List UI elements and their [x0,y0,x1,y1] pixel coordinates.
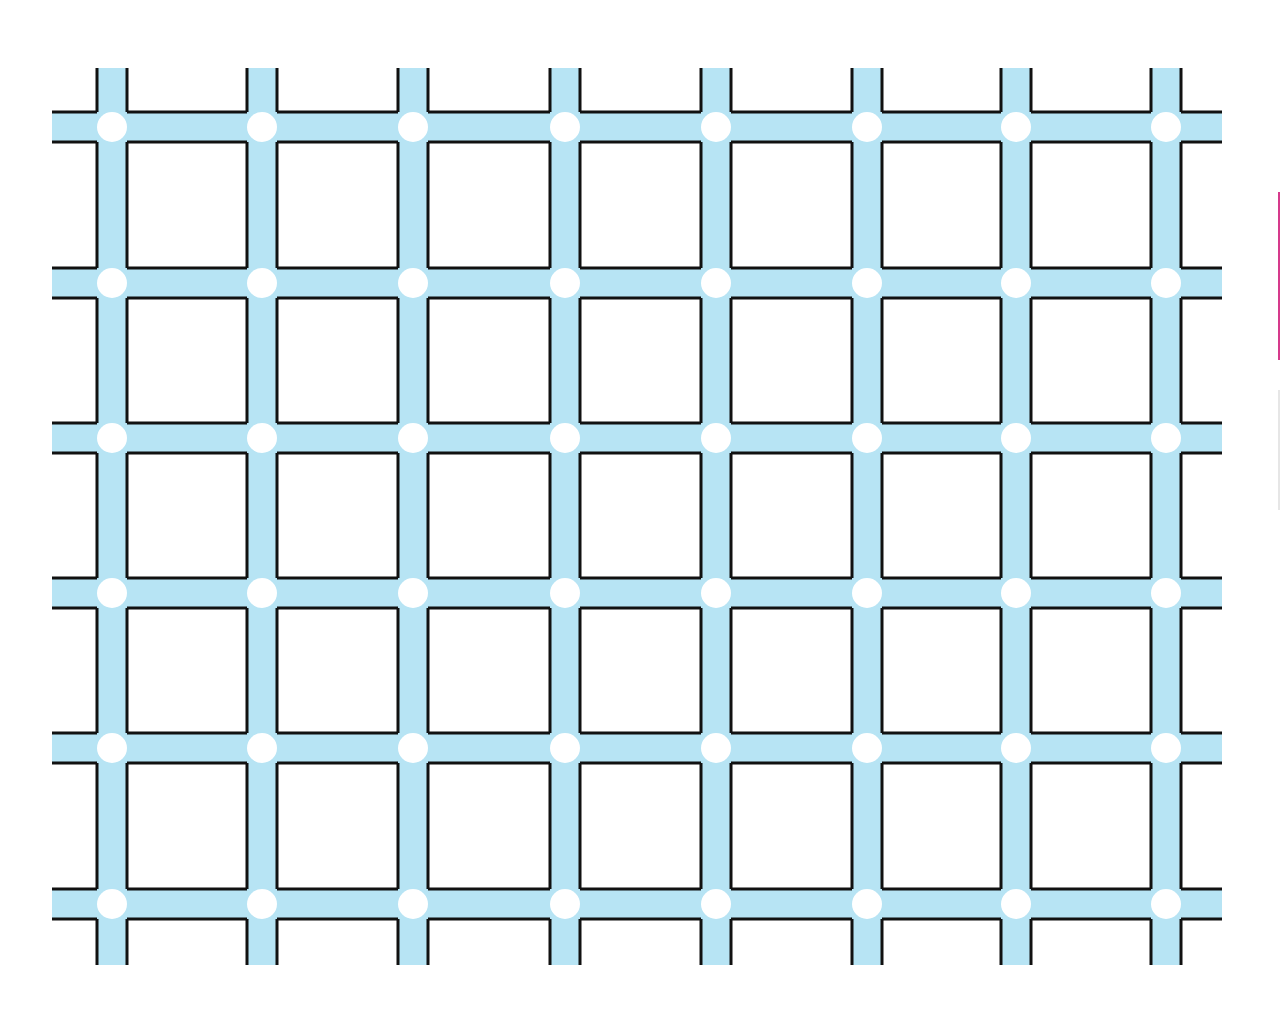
intersection-dot [97,578,127,608]
cell-outline [277,142,398,268]
intersection-dot [1001,268,1031,298]
cell-outline [1181,919,1222,965]
intersection-dot [97,733,127,763]
cell-outline [52,142,97,268]
horizontal-band [52,112,1222,142]
intersection-dot [1151,733,1181,763]
cell-outline [580,142,701,268]
cell-outline [580,919,701,965]
cell-outline [52,453,97,578]
intersection-dot [247,423,277,453]
intersection-dot [852,112,882,142]
cell-outline [731,453,852,578]
intersection-dot [398,112,428,142]
cell-outline [52,68,97,112]
cell-outline [52,919,97,965]
cell-outline [731,608,852,733]
intersection-dot [398,578,428,608]
cell-outline [1181,608,1222,733]
intersection-dot [1001,733,1031,763]
intersection-dot [97,423,127,453]
intersection-dot [1151,112,1181,142]
cell-outline [428,142,550,268]
cell-outline [731,763,852,889]
horizontal-band [52,268,1222,298]
intersection-dot [550,268,580,298]
intersection-dot [1001,578,1031,608]
cell-outline [277,453,398,578]
vertical-band [97,68,127,965]
intersection-dot [550,578,580,608]
cell-outline [277,763,398,889]
intersection-dot [852,733,882,763]
cell-outline [1031,142,1151,268]
cell-outline [1181,68,1222,112]
cell-outline [1031,919,1151,965]
vertical-band [247,68,277,965]
intersection-dot [550,733,580,763]
intersection-dot [550,889,580,919]
horizontal-band [52,423,1222,453]
cell-outline [731,68,852,112]
cell-outline [52,298,97,423]
cell-outline [1031,68,1151,112]
cell-outline [277,298,398,423]
horizontal-band [52,578,1222,608]
vertical-band [398,68,428,965]
cell-outline [428,763,550,889]
intersection-dot [701,578,731,608]
intersection-dot [1151,423,1181,453]
horizontal-band [52,889,1222,919]
vertical-band [550,68,580,965]
cell-outline [1181,142,1222,268]
intersection-dot [852,423,882,453]
cell-outline [882,763,1001,889]
cell-outline [127,142,247,268]
cell-outline [127,453,247,578]
intersection-dot [1001,112,1031,142]
cell-outline [127,608,247,733]
intersection-dot [97,889,127,919]
grid-illusion [0,0,1281,1014]
edge-mark [1278,390,1280,510]
cell-outline [52,763,97,889]
cell-outline [731,298,852,423]
vertical-band [852,68,882,965]
edge-mark [1278,192,1280,360]
cell-outline [731,142,852,268]
cell-outline [428,298,550,423]
cell-outline [580,453,701,578]
cell-outline [731,919,852,965]
cell-outline [882,919,1001,965]
cell-outline [1031,608,1151,733]
intersection-dot [97,112,127,142]
intersection-dot [852,578,882,608]
intersection-dot [398,423,428,453]
intersection-dot [1001,423,1031,453]
intersection-dot [398,268,428,298]
cell-outline [580,68,701,112]
intersection-dot [97,268,127,298]
cell-outline [882,68,1001,112]
intersection-dot [398,889,428,919]
intersection-dot [1001,889,1031,919]
cell-outline [277,608,398,733]
cell-outline [1181,453,1222,578]
cell-outline [882,142,1001,268]
cell-outline [1031,298,1151,423]
intersection-dot [852,889,882,919]
vertical-band [701,68,731,965]
cell-outline [277,919,398,965]
cell-outline [1181,763,1222,889]
intersection-dot [701,733,731,763]
intersection-dot [550,112,580,142]
cell-outline [127,763,247,889]
intersection-dot [701,889,731,919]
cell-outline [882,298,1001,423]
intersection-dot [701,268,731,298]
intersection-dot [852,268,882,298]
scintillating-grid-figure [0,0,1281,1014]
vertical-band [1001,68,1031,965]
intersection-dot [1151,268,1181,298]
cell-outline [428,68,550,112]
